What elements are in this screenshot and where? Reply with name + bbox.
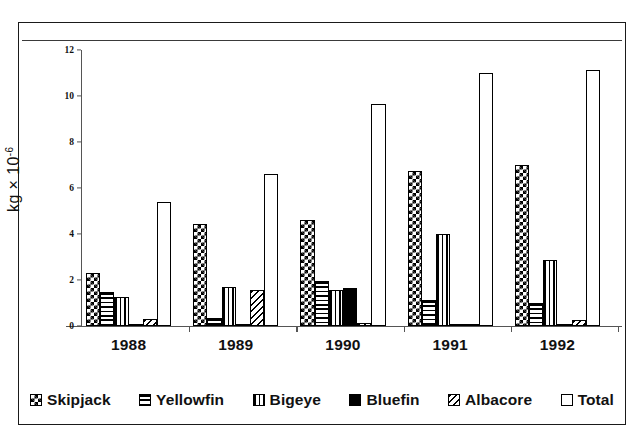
- legend-label: Bigeye: [270, 391, 321, 409]
- legend-item-skipjack[interactable]: Skipjack: [30, 391, 111, 409]
- legend-swatch-icon: [253, 394, 265, 406]
- chart-legend: SkipjackYellowfinBigeyeBluefinAlbacoreTo…: [24, 388, 620, 412]
- legend-label: Total: [578, 391, 614, 409]
- legend-label: Skipjack: [47, 391, 111, 409]
- y-axis-title-exponent: -6: [4, 147, 15, 157]
- legend-item-bigeye[interactable]: Bigeye: [253, 391, 321, 409]
- legend-label: Yellowfin: [156, 391, 224, 409]
- legend-label: Albacore: [465, 391, 532, 409]
- legend-item-bluefin[interactable]: Bluefin: [349, 391, 419, 409]
- legend-swatch-icon: [30, 394, 42, 406]
- chart-figure-frame: [18, 22, 626, 425]
- legend-swatch-icon: [448, 394, 460, 406]
- legend-label: Bluefin: [366, 391, 419, 409]
- legend-item-albacore[interactable]: Albacore: [448, 391, 532, 409]
- legend-swatch-icon: [561, 394, 573, 406]
- top-divider-rule: [22, 40, 622, 41]
- legend-item-total[interactable]: Total: [561, 391, 614, 409]
- legend-swatch-icon: [349, 394, 361, 406]
- legend-item-yellowfin[interactable]: Yellowfin: [139, 391, 224, 409]
- legend-swatch-icon: [139, 394, 151, 406]
